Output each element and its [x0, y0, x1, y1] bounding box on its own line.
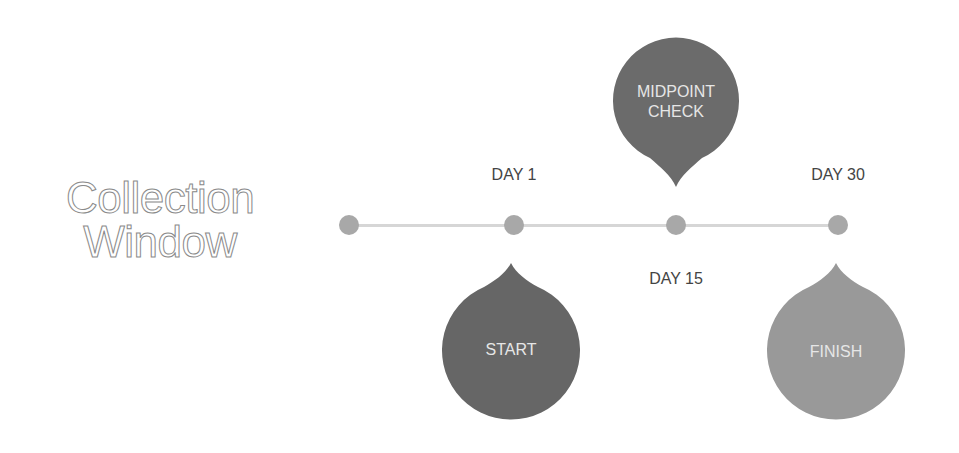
- day-30-label: DAY 30: [811, 166, 865, 184]
- timeline-dot-origin: [339, 215, 359, 235]
- finish-bubble-label: FINISH: [810, 342, 862, 362]
- day-15-label: DAY 15: [649, 270, 703, 288]
- timeline-diagram: Collection Window DAY 1 DAY 15 DAY 30 MI…: [0, 0, 959, 453]
- timeline-dot-day-15: [666, 215, 686, 235]
- start-bubble-label: START: [486, 340, 537, 360]
- midpoint-label-line-1: MIDPOINT: [637, 82, 715, 102]
- day-1-label: DAY 1: [492, 166, 537, 184]
- midpoint-label-line-2: CHECK: [637, 102, 715, 122]
- timeline-dot-day-30: [828, 215, 848, 235]
- timeline-dot-day-1: [504, 215, 524, 235]
- timeline-line: [349, 224, 838, 227]
- midpoint-bubble-label: MIDPOINT CHECK: [637, 82, 715, 122]
